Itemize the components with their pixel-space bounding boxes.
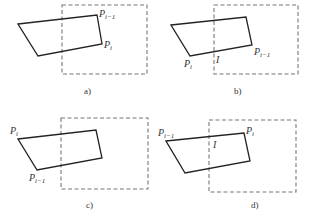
panel-a: Pi−1Pia) <box>18 5 147 96</box>
vertex-label: Pi−1 <box>157 127 174 140</box>
polygon <box>171 17 252 56</box>
panel-c: PiPi−1c) <box>9 118 148 210</box>
intersection-label: I <box>215 54 220 65</box>
panel-caption: b) <box>234 86 242 96</box>
panel-caption: a) <box>84 86 91 96</box>
panel-caption: c) <box>86 200 93 210</box>
polygon <box>166 133 250 173</box>
panel-b: PiIPi−1b) <box>171 5 298 96</box>
polygon <box>18 130 102 170</box>
panel-d: Pi−1IPid) <box>157 120 296 210</box>
vertex-label: Pi−1 <box>98 8 115 21</box>
vertex-label: Pi−1 <box>28 172 45 185</box>
clip-window <box>214 5 298 74</box>
clip-window <box>61 118 148 189</box>
vertex-label: Pi <box>103 39 112 52</box>
panel-caption: d) <box>251 200 259 210</box>
vertex-label: Pi <box>245 125 254 138</box>
clipping-cases-diagram: Pi−1Pia)PiIPi−1b)PiPi−1c)Pi−1IPid) <box>0 0 309 222</box>
vertex-label: Pi <box>9 125 18 138</box>
polygon <box>18 15 102 56</box>
vertex-label: Pi <box>183 58 192 71</box>
vertex-label: Pi−1 <box>253 46 270 59</box>
intersection-label: I <box>212 139 217 150</box>
